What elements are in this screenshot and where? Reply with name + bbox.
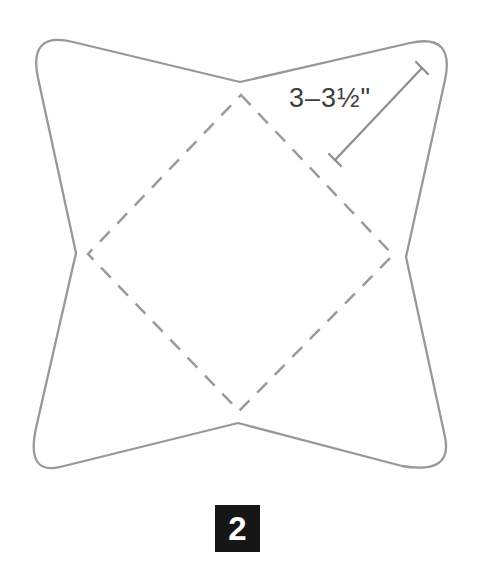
measurement-label: 3–3½" <box>289 83 371 113</box>
dimension-line <box>329 62 428 166</box>
diagram-canvas: 3–3½" 2 <box>0 0 477 577</box>
step-number-badge: 2 <box>215 505 260 552</box>
dimension-line-shaft <box>335 68 422 160</box>
fold-line-diamond <box>88 95 393 411</box>
pattern-diagram: 3–3½" <box>0 0 477 577</box>
step-number: 2 <box>228 512 246 545</box>
pattern-outline <box>34 40 447 468</box>
